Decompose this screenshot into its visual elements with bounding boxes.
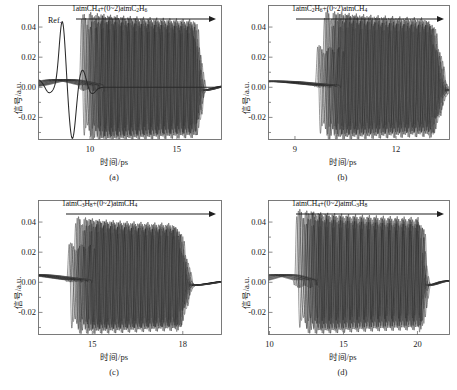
panel-tag-b: (b) bbox=[228, 172, 457, 182]
pressure-arrow-head bbox=[437, 16, 444, 22]
trace-group bbox=[38, 217, 222, 334]
x-tick-label: 15 bbox=[173, 144, 182, 154]
annotation-d: 1atmCH4+(0~2)atmC3H8 bbox=[292, 199, 367, 208]
y-tick-label: 0.00 bbox=[251, 82, 266, 92]
trace-group bbox=[38, 12, 222, 141]
y-tick-label: -0.02 bbox=[248, 112, 266, 122]
x-axis-label-d: 时间/ps bbox=[228, 350, 457, 362]
panel-d: 信号/a.u. 0.040.020.00-0.02 101520 时间/ps (… bbox=[228, 195, 457, 390]
ref-label-a: Ref. bbox=[48, 16, 62, 25]
y-tick-label: -0.02 bbox=[18, 112, 36, 122]
y-tick-label: 0.02 bbox=[251, 247, 266, 257]
y-tick-label: 0.00 bbox=[21, 82, 36, 92]
y-tick-label: 0.04 bbox=[251, 217, 266, 227]
panel-tag-c: (c) bbox=[0, 367, 228, 377]
annotation-b: 1atmC2H6+(0~2)atmCH4 bbox=[292, 4, 367, 13]
panel-a: 信号/a.u. 0.040.020.00-0.02 1015 时间/ps (a)… bbox=[0, 0, 228, 195]
y-tick-label: -0.02 bbox=[248, 307, 266, 317]
y-tick-label: 0.02 bbox=[21, 52, 36, 62]
y-tick-label: 0.00 bbox=[251, 277, 266, 287]
x-tick-label: 15 bbox=[88, 339, 97, 349]
y-tick-label: -0.02 bbox=[18, 307, 36, 317]
y-tick-label: 0.04 bbox=[21, 22, 36, 32]
x-tick-label: 9 bbox=[293, 144, 297, 154]
pressure-arrow-head bbox=[209, 16, 216, 22]
x-tick-label: 12 bbox=[392, 144, 401, 154]
x-tick-label: 10 bbox=[265, 339, 274, 349]
annotation-a: 1atmCH4+(0~2)atmC2H6 bbox=[72, 4, 147, 13]
panel-c: 信号/a.u. 0.040.020.00-0.02 1518 时间/ps (c)… bbox=[0, 195, 228, 390]
trace-group bbox=[268, 10, 450, 140]
panel-b: 信号/a.u. 0.040.020.00-0.02 912 时间/ps (b) … bbox=[228, 0, 457, 195]
y-tick-label: 0.04 bbox=[21, 217, 36, 227]
y-tick-label: 0.02 bbox=[251, 52, 266, 62]
figure-grid: 信号/a.u. 0.040.020.00-0.02 1015 时间/ps (a)… bbox=[0, 0, 457, 390]
x-tick-label: 10 bbox=[86, 144, 95, 154]
annotation-c: 1atmC3H8+(0~2)atmCH4 bbox=[62, 199, 137, 208]
pressure-arrow-head bbox=[209, 211, 216, 217]
x-tick-label: 15 bbox=[339, 339, 348, 349]
panel-tag-d: (d) bbox=[228, 367, 457, 377]
panel-tag-a: (a) bbox=[0, 172, 228, 182]
y-tick-label: 0.02 bbox=[21, 247, 36, 257]
pressure-arrow-head bbox=[437, 211, 444, 217]
y-tick-label: 0.04 bbox=[251, 22, 266, 32]
y-tick-label: 0.00 bbox=[21, 277, 36, 287]
x-axis-label-b: 时间/ps bbox=[228, 155, 457, 167]
x-tick-label: 20 bbox=[413, 339, 422, 349]
x-tick-label: 18 bbox=[179, 339, 188, 349]
x-axis-label-a: 时间/ps bbox=[0, 155, 228, 167]
x-axis-label-c: 时间/ps bbox=[0, 350, 228, 362]
trace-group bbox=[268, 209, 450, 333]
